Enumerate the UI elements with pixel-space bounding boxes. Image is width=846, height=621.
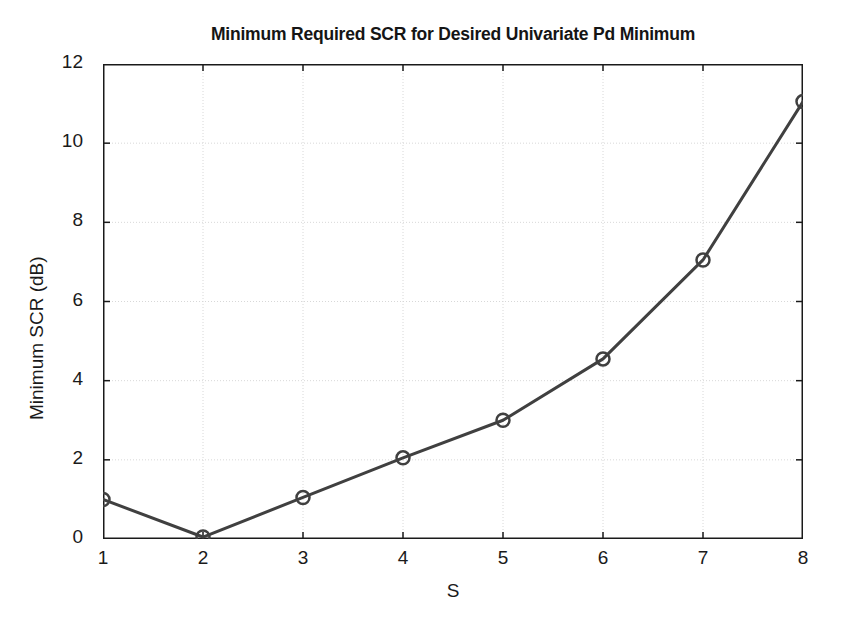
x-tick-label: 5 (483, 547, 523, 569)
x-tick-label: 7 (683, 547, 723, 569)
figure-canvas: Minimum Required SCR for Desired Univari… (0, 0, 846, 621)
x-tick-label: 6 (583, 547, 623, 569)
x-tick-labels: 12345678 (0, 0, 846, 621)
x-tick-label: 8 (783, 547, 823, 569)
x-tick-label: 4 (383, 547, 423, 569)
y-axis-label: Minimum SCR (dB) (26, 256, 48, 420)
x-tick-label: 2 (183, 547, 223, 569)
x-tick-label: 3 (283, 547, 323, 569)
x-axis-label: S (103, 580, 803, 602)
x-tick-label: 1 (83, 547, 123, 569)
